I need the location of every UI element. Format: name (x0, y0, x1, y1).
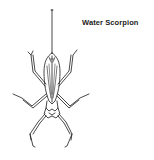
hind-legs (28, 50, 77, 86)
front-legs (30, 114, 72, 147)
breathing-tube (51, 10, 53, 53)
middle-legs (13, 94, 89, 108)
water-scorpion-illustration (0, 0, 154, 160)
